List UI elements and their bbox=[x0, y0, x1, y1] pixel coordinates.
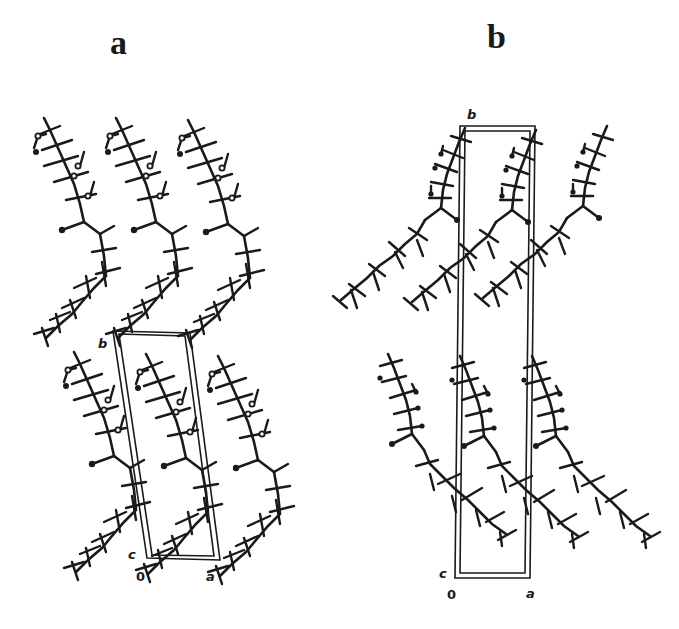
molecule bbox=[207, 356, 294, 584]
origin-label: 0 bbox=[447, 588, 456, 601]
crystal-packing-diagram bbox=[0, 0, 679, 629]
unit-cell-b bbox=[455, 126, 535, 578]
axis-label-a: a bbox=[206, 570, 215, 583]
axis-label-c: c bbox=[439, 567, 447, 580]
molecule bbox=[177, 120, 264, 348]
axis-label-b: b bbox=[98, 337, 107, 350]
panel-b-drawing bbox=[333, 126, 660, 578]
axis-label-b: b bbox=[467, 108, 476, 121]
molecule bbox=[333, 128, 471, 308]
unit-cell-a bbox=[113, 331, 220, 560]
molecule bbox=[475, 126, 613, 306]
origin-label: 0 bbox=[136, 570, 145, 583]
axis-label-c: c bbox=[128, 548, 136, 561]
panel-a-drawing bbox=[33, 118, 294, 584]
molecule bbox=[521, 356, 660, 548]
axis-label-a: a bbox=[526, 587, 535, 600]
